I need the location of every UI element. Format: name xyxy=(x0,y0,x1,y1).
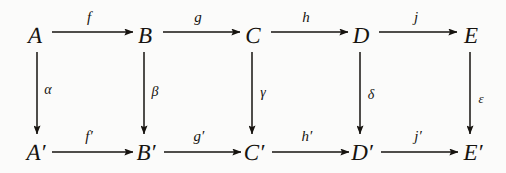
node-a: A xyxy=(28,24,42,47)
arrow-label-gamma: γ xyxy=(260,86,266,100)
arrow-label-g2: g′ xyxy=(194,129,205,144)
vertical-arrow-group xyxy=(37,52,470,134)
node-c: C xyxy=(245,24,260,47)
node-c2: C′ xyxy=(244,141,264,164)
arrow-label-f: f xyxy=(87,10,91,25)
arrow-label-beta: β xyxy=(152,85,159,99)
arrow-label-j2: j′ xyxy=(414,129,421,144)
node-d: D xyxy=(353,24,370,47)
arrow-label-delta: δ xyxy=(368,88,375,102)
arrow-label-j: j xyxy=(414,10,418,25)
commutative-diagram: ABCDEA′B′C′D′E′ fghjf′g′h′j′αβγδε xyxy=(0,0,506,173)
node-a2: A′ xyxy=(26,141,45,164)
arrow-label-g: g xyxy=(194,10,202,25)
node-b: B xyxy=(138,24,152,47)
horizontal-arrow-group xyxy=(52,32,458,152)
node-e: E xyxy=(464,24,478,47)
node-d2: D′ xyxy=(351,141,373,164)
arrow-label-epsilon: ε xyxy=(478,92,483,105)
node-e2: E′ xyxy=(463,141,482,164)
arrow-label-h: h xyxy=(302,10,310,25)
node-b2: B′ xyxy=(136,141,155,164)
arrow-label-h2: h′ xyxy=(302,129,313,144)
arrow-label-alpha: α xyxy=(44,83,51,97)
arrow-label-f2: f′ xyxy=(85,129,92,144)
